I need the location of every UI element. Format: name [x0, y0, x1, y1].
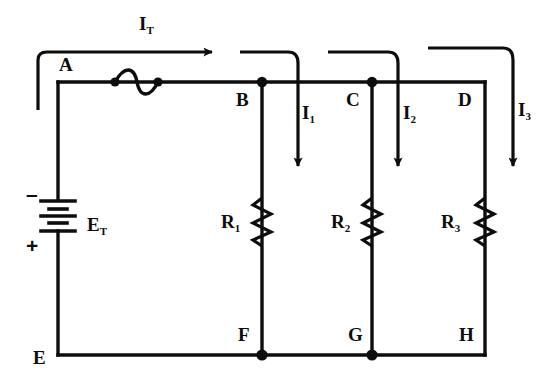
node-label-c: C: [346, 90, 360, 109]
current-label-total: IT: [139, 14, 154, 33]
fuse-terminal-dot-left: [110, 77, 119, 86]
node-label-h: H: [459, 325, 474, 344]
current-label-branch-1: I1: [302, 103, 315, 122]
resistor-label-2: R2: [331, 212, 350, 231]
current-label-branch-3: I3: [518, 100, 531, 119]
node-label-e: E: [33, 348, 46, 367]
battery-negative-sign: –: [26, 183, 38, 204]
node-label-b: B: [236, 90, 249, 109]
current-label-branch-2: I2: [403, 103, 416, 122]
source-label: ET: [87, 215, 107, 234]
junction-dot-b: [257, 77, 267, 87]
fuse-terminal-dot-right: [153, 77, 162, 86]
resistor-label-3: R3: [441, 212, 460, 231]
junction-dot-g: [366, 349, 377, 360]
resistor-label-1: R1: [221, 212, 240, 231]
junction-dot-c: [367, 77, 377, 87]
node-label-a: A: [59, 55, 73, 74]
circuit-diagram-canvas: IT A B I1 C I2 D I3 – + ET R1 R2 R3 E F …: [0, 0, 555, 387]
current-arrow-branch-2: [328, 52, 398, 166]
battery-positive-sign: +: [26, 235, 38, 256]
node-label-d: D: [458, 90, 472, 109]
junction-dot-f: [256, 349, 267, 360]
node-label-g: G: [348, 325, 363, 344]
node-label-f: F: [238, 325, 250, 344]
